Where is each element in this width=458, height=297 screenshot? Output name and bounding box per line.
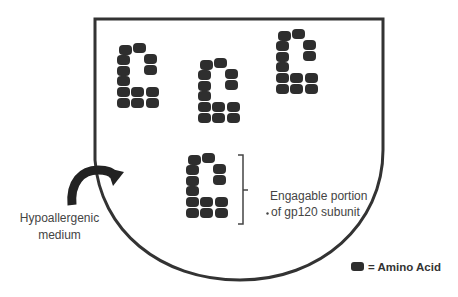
dot-mark <box>266 212 268 214</box>
legend-amino-acid-icon <box>351 262 364 271</box>
legend-label: = Amino Acid <box>368 261 441 273</box>
amino-acid-block <box>212 113 225 123</box>
container-outline <box>95 19 383 280</box>
curved-arrow-icon <box>72 168 124 205</box>
diagram-canvas: Engagable portion of gp120 subunit Hypoa… <box>0 0 458 297</box>
arrow-label-line2: medium <box>38 228 81 242</box>
amino-acid-block <box>198 102 211 112</box>
amino-acid-block <box>215 208 228 218</box>
amino-acid-block <box>305 73 318 83</box>
amino-acid-block <box>225 80 238 90</box>
amino-acid-block <box>186 165 199 175</box>
amino-acid-block <box>198 113 211 123</box>
amino-acid-block <box>146 98 159 108</box>
amino-acid-block <box>188 155 201 165</box>
amino-acid-block <box>186 176 199 186</box>
amino-acid-block <box>117 76 130 86</box>
amino-acid-block <box>186 197 199 207</box>
cluster-4 <box>186 153 228 218</box>
amino-acid-block <box>131 98 144 108</box>
amino-acid-block <box>276 73 289 83</box>
amino-acid-block <box>227 102 240 112</box>
amino-acid-block <box>202 153 215 163</box>
amino-acid-block <box>117 55 130 65</box>
amino-acid-block <box>186 208 199 218</box>
bracket-label-line2: of gp120 subunit <box>271 205 360 219</box>
amino-acid-block <box>303 40 316 50</box>
amino-acid-block <box>290 73 303 83</box>
amino-acid-block <box>200 208 213 218</box>
amino-acid-block <box>117 66 130 76</box>
amino-acid-block <box>146 87 159 97</box>
amino-acid-block <box>292 29 305 39</box>
amino-acid-block <box>213 164 226 174</box>
amino-acid-block <box>200 60 213 70</box>
amino-acid-block <box>276 62 289 72</box>
bracket <box>238 155 248 224</box>
amino-acid-block <box>186 186 199 196</box>
amino-acid-block <box>276 84 289 94</box>
arrow-label-line1: Hypoallergenic <box>20 211 99 225</box>
amino-acid-block <box>276 41 289 51</box>
amino-acid-block <box>198 70 211 80</box>
amino-acid-block <box>213 175 226 185</box>
cluster-2 <box>198 58 240 123</box>
amino-acid-block <box>144 54 157 64</box>
amino-acid-block <box>119 45 132 55</box>
amino-acid-block <box>131 87 144 97</box>
amino-acid-block <box>198 91 211 101</box>
amino-acid-block <box>227 113 240 123</box>
cluster-3 <box>276 29 318 94</box>
amino-acid-block <box>290 84 303 94</box>
amino-acid-block <box>214 58 227 68</box>
amino-acid-block <box>133 43 146 53</box>
cluster-1 <box>117 43 159 108</box>
amino-acid-block <box>305 84 318 94</box>
amino-acid-block <box>198 81 211 91</box>
amino-acid-block <box>117 98 130 108</box>
amino-acid-block <box>144 65 157 75</box>
amino-acid-block <box>276 52 289 62</box>
bracket-label-line1: Engagable portion <box>270 189 367 203</box>
amino-acid-block <box>117 87 130 97</box>
amino-acid-block <box>303 51 316 61</box>
amino-acid-block <box>200 197 213 207</box>
amino-acid-block <box>225 69 238 79</box>
amino-acid-block <box>278 31 291 41</box>
amino-acid-block <box>212 102 225 112</box>
amino-acid-block <box>215 197 228 207</box>
